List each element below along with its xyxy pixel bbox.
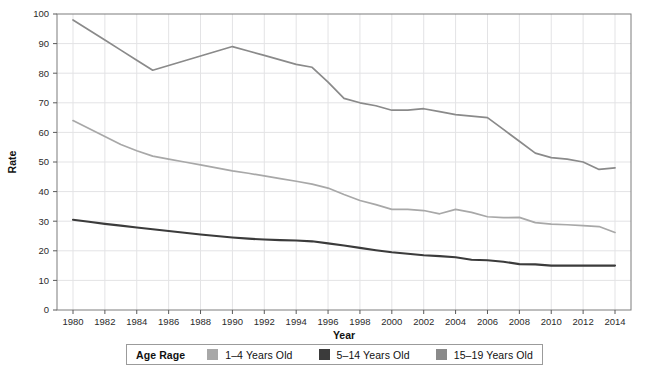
x-tick-label: 1988 xyxy=(190,316,211,327)
y-tick-label: 0 xyxy=(44,304,49,315)
x-tick-label: 1990 xyxy=(222,316,243,327)
y-tick-label: 80 xyxy=(38,68,49,79)
y-tick-label: 30 xyxy=(38,216,49,227)
legend-title: Age Rage xyxy=(136,349,185,361)
x-tick-label: 1996 xyxy=(317,316,338,327)
x-tick-label: 1992 xyxy=(254,316,275,327)
y-tick-label: 40 xyxy=(38,186,49,197)
x-tick-label: 2008 xyxy=(509,316,530,327)
legend-swatch-1-4 xyxy=(207,349,218,360)
y-axis-title: Rate xyxy=(6,150,18,173)
legend-item-1-4[interactable]: 1–4 Years Old xyxy=(207,349,292,361)
x-tick-label: 2000 xyxy=(381,316,402,327)
series-line-5-14-years-old xyxy=(73,220,615,266)
legend-item-15-19[interactable]: 15–19 Years Old xyxy=(436,349,533,361)
x-tick-label: 1998 xyxy=(349,316,370,327)
x-tick-label: 1994 xyxy=(286,316,307,327)
legend-label-5-14: 5–14 Years Old xyxy=(337,349,410,361)
legend-swatch-15-19 xyxy=(436,349,447,360)
x-tick-label: 2002 xyxy=(413,316,434,327)
y-tick-label: 50 xyxy=(38,156,49,167)
x-tick-label: 1980 xyxy=(62,316,83,327)
data-series-lines xyxy=(73,20,615,266)
x-tick-label: 2010 xyxy=(541,316,562,327)
y-tick-label: 90 xyxy=(38,38,49,49)
chart-figure: 0102030405060708090100 19801982198419861… xyxy=(0,0,647,377)
x-tick-label: 2012 xyxy=(573,316,594,327)
x-tick-label: 2014 xyxy=(604,316,625,327)
legend-label-15-19: 15–19 Years Old xyxy=(454,349,533,361)
x-tick-label: 1986 xyxy=(158,316,179,327)
y-tick-label: 70 xyxy=(38,97,49,108)
x-axis-ticks: 1980198219841986198819901992199419961998… xyxy=(62,310,625,327)
chart-legend: Age Rage 1–4 Years Old 5–14 Years Old 15… xyxy=(126,344,543,365)
x-tick-label: 2006 xyxy=(477,316,498,327)
legend-item-5-14[interactable]: 5–14 Years Old xyxy=(319,349,410,361)
series-line-1-4-years-old xyxy=(73,121,615,233)
y-tick-label: 60 xyxy=(38,127,49,138)
y-tick-label: 10 xyxy=(38,275,49,286)
y-tick-label: 20 xyxy=(38,245,49,256)
x-tick-label: 1984 xyxy=(126,316,147,327)
x-tick-label: 2004 xyxy=(445,316,466,327)
legend-swatch-5-14 xyxy=(319,349,330,360)
series-line-15-19-years-old xyxy=(73,20,615,169)
x-tick-label: 1982 xyxy=(94,316,115,327)
y-axis-ticks: 0102030405060708090100 xyxy=(33,8,57,315)
line-chart-plot: 0102030405060708090100 19801982198419861… xyxy=(0,0,647,340)
legend-label-1-4: 1–4 Years Old xyxy=(225,349,292,361)
y-tick-label: 100 xyxy=(33,8,49,19)
x-axis-title: Year xyxy=(333,329,355,340)
